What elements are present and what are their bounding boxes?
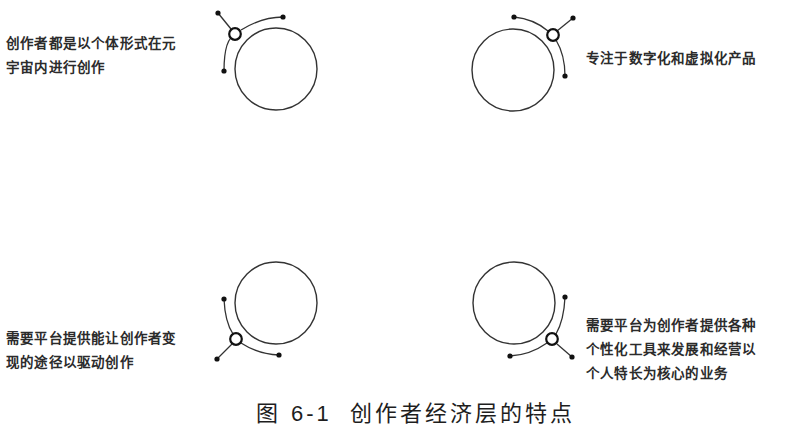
dot-icon (511, 14, 516, 19)
label-line: 专注于数字化和虚拟化产品 (586, 46, 756, 70)
dot-icon (276, 352, 281, 357)
dot-icon (221, 296, 226, 301)
main-circle (235, 262, 317, 344)
feature-label-bottom-right: 需要平台为创作者提供各种 个性化工具来发展和经营以 个人特长为核心的业务 (586, 313, 756, 385)
connector-line (217, 344, 232, 359)
caption-title: 创作者经济层的特点 (350, 401, 575, 426)
dot-icon (280, 14, 285, 19)
label-line: 创作者都是以个体形式在元 (6, 31, 176, 55)
main-circle (473, 262, 555, 344)
ring-icon (546, 333, 558, 345)
dot-icon (507, 353, 512, 358)
orbit-arc (224, 299, 279, 355)
label-line: 现的途径以驱动创作 (6, 350, 176, 374)
main-circle (235, 28, 317, 110)
dot-icon (569, 354, 574, 359)
ring-icon (230, 333, 242, 345)
caption-number: 6-1 (291, 401, 332, 426)
dot-icon (214, 356, 219, 361)
node-top-right (472, 14, 576, 111)
dot-icon (562, 294, 567, 299)
label-line: 宇宙内进行创作 (6, 55, 176, 79)
label-line: 需要平台为创作者提供各种 (586, 313, 756, 337)
caption-prefix: 图 (256, 401, 281, 426)
node-bottom-right (473, 262, 575, 360)
feature-label-top-left: 创作者都是以个体形式在元 宇宙内进行创作 (6, 31, 176, 79)
label-line: 个性化工具来发展和经营以 (586, 337, 756, 361)
ring-icon (229, 28, 241, 40)
dot-icon (562, 73, 567, 78)
main-circle (472, 29, 554, 111)
feature-label-top-right: 专注于数字化和虚拟化产品 (586, 46, 756, 70)
figure-caption: 图6-1创作者经济层的特点 (256, 401, 575, 427)
connector-line (557, 18, 573, 31)
dot-icon (215, 10, 220, 15)
ring-icon (547, 29, 559, 41)
orbit-arc (224, 17, 283, 71)
connector-line (218, 13, 231, 29)
dot-icon (221, 68, 226, 73)
feature-label-bottom-left: 需要平台提供能让创作者变 现的途径以驱动创作 (6, 326, 176, 374)
node-bottom-left (214, 262, 317, 362)
dot-icon (570, 15, 575, 20)
label-line: 需要平台提供能让创作者变 (6, 326, 176, 350)
connector-line (557, 344, 572, 357)
node-top-left (215, 10, 317, 110)
orbit-arc (514, 17, 565, 76)
orbit-arc (510, 297, 565, 356)
label-line: 个人特长为核心的业务 (586, 361, 756, 385)
